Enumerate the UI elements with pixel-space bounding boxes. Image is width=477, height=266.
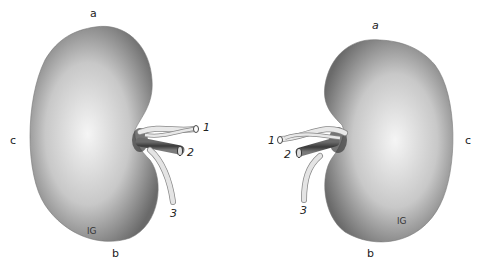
left-label-3: 3 (170, 208, 177, 219)
right-label-2: 2 (284, 149, 291, 160)
artist-signature: lG (87, 226, 97, 236)
right-label-b: b (367, 248, 374, 259)
left-label-b: b (112, 248, 119, 259)
artist-signature: lG (397, 216, 407, 226)
left-label-2: 2 (187, 147, 194, 158)
right-label-c: c (465, 135, 471, 146)
right-label-3: 3 (300, 205, 307, 216)
right-label-1: 1 (268, 135, 275, 146)
right-label-a: a (372, 20, 379, 31)
kidney-illustration: lG lG (0, 0, 477, 266)
left-label-a: a (90, 8, 97, 19)
left-label-1: 1 (203, 122, 210, 133)
left-label-c: c (10, 135, 16, 146)
